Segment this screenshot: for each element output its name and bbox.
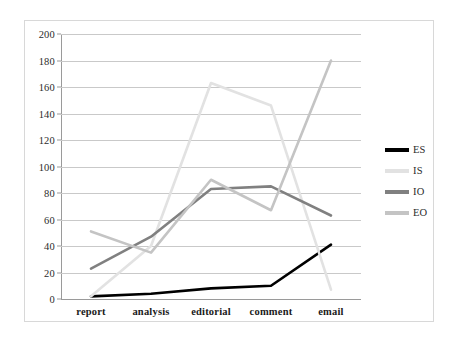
series-line-eo	[91, 61, 331, 253]
series-line-io	[91, 186, 331, 268]
legend-item-io[interactable]: IO	[385, 181, 433, 202]
x-axis-category-label: email	[318, 306, 344, 317]
legend-label: EO	[413, 207, 427, 218]
gridline	[61, 299, 361, 300]
legend-swatch-es	[385, 148, 409, 152]
y-axis-tick-label: 200	[39, 29, 55, 40]
legend-swatch-eo	[385, 211, 409, 215]
legend-item-es[interactable]: ES	[385, 139, 433, 160]
x-axis-category-label: editorial	[191, 306, 231, 317]
series-lines	[61, 34, 361, 299]
legend-item-eo[interactable]: EO	[385, 202, 433, 223]
x-axis-category-label: analysis	[132, 306, 169, 317]
y-axis-tick-label: 160	[39, 82, 55, 93]
y-axis-tick-label: 40	[44, 241, 55, 252]
x-axis-category-label: report	[76, 306, 106, 317]
plot-area: 020406080100120140160180200 reportanalys…	[61, 34, 361, 299]
y-axis-tick-label: 20	[44, 267, 55, 278]
legend-item-is[interactable]: IS	[385, 160, 433, 181]
y-axis-tick-label: 60	[44, 214, 55, 225]
legend-label: IO	[413, 186, 424, 197]
legend-label: ES	[413, 144, 426, 155]
legend-label: IS	[413, 165, 423, 176]
legend-swatch-is	[385, 169, 409, 173]
chart-frame: 020406080100120140160180200 reportanalys…	[24, 20, 434, 322]
y-axis-tick-label: 140	[39, 108, 55, 119]
y-axis-tick-label: 120	[39, 135, 55, 146]
y-axis-tick-label: 100	[39, 161, 55, 172]
chart-legend: ESISIOEO	[385, 139, 433, 223]
y-axis-tick-label: 0	[50, 294, 55, 305]
x-axis-category-label: comment	[250, 306, 293, 317]
y-axis-tick-label: 80	[44, 188, 55, 199]
series-line-es	[91, 245, 331, 297]
y-axis-tick-label: 180	[39, 55, 55, 66]
legend-swatch-io	[385, 190, 409, 194]
